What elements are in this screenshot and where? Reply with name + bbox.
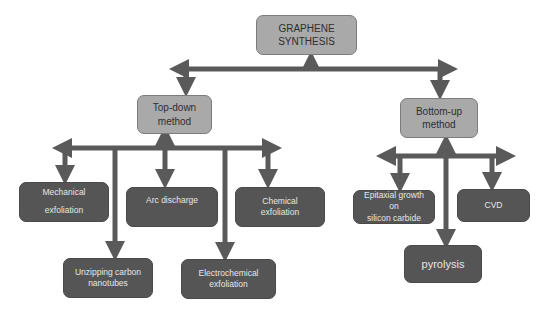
pyrolysis-label: pyrolysis	[418, 257, 469, 272]
epitaxial-label-line1: Epitaxial growth on	[358, 190, 430, 213]
node-electrochemical-exfoliation: Electrochemical exfoliation	[181, 259, 276, 299]
root-node-graphene-synthesis: GRAPHENE SYNTHESIS	[256, 15, 357, 55]
node-epitaxial-growth-silicon-carbide: Epitaxial growth on silicon carbide	[353, 190, 435, 224]
root-label-line2: SYNTHESIS	[274, 35, 339, 49]
unzipping-label-line1: Unzipping carbon	[71, 267, 145, 278]
chemical-label: Chemical exfoliation	[240, 196, 320, 219]
bottom-up-label-line2: method	[412, 118, 466, 132]
node-bottom-up-method: Bottom-up method	[400, 98, 478, 138]
node-pyrolysis: pyrolysis	[404, 245, 482, 283]
node-unzipping-carbon-nanotubes: Unzipping carbon nanotubes	[63, 258, 153, 298]
mechanical-label-line2: exfoliation	[39, 202, 90, 220]
mechanical-label-line1: Mechanical	[39, 184, 90, 202]
top-down-label-line2: method	[149, 115, 200, 129]
node-cvd: CVD	[457, 189, 530, 222]
epitaxial-label-line2: silicon carbide	[358, 213, 430, 224]
node-arc-discharge: Arc discharge	[126, 187, 218, 227]
electrochemical-label-line2: exfoliation	[195, 279, 263, 290]
graphene-synthesis-diagram: GRAPHENE SYNTHESIS Top-down method Botto…	[0, 0, 550, 314]
electrochemical-label-line1: Electrochemical	[195, 268, 263, 279]
node-mechanical-exfoliation: Mechanical exfoliation	[19, 182, 109, 222]
cvd-label: CVD	[481, 200, 507, 211]
bottom-up-label-line1: Bottom-up	[412, 105, 466, 119]
node-chemical-exfoliation: Chemical exfoliation	[235, 187, 325, 227]
root-label-line1: GRAPHENE	[274, 22, 339, 36]
node-top-down-method: Top-down method	[137, 95, 212, 134]
arc-discharge-label: Arc discharge	[142, 195, 202, 206]
top-down-label-line1: Top-down	[149, 101, 200, 115]
unzipping-label-line2: nanotubes	[71, 278, 145, 289]
